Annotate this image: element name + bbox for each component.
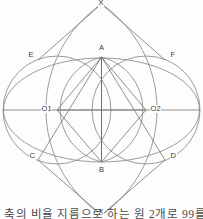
geometric-figure: X A E F O1 O2 C D B X 축의 비율 지름으로 하는 원 2개… xyxy=(0,0,203,219)
point-label-b: B xyxy=(99,166,105,174)
geometry-canvas xyxy=(0,0,203,219)
arc-lens-right xyxy=(102,4,158,215)
line-o2-a xyxy=(102,57,147,110)
line-o1-a xyxy=(57,57,102,110)
arc-lens-left xyxy=(46,4,102,215)
point-label-d: D xyxy=(170,152,177,160)
point-label-f: F xyxy=(170,51,176,59)
caption-strip: 축의 비율 지름으로 하는 원 2개로 99를 그 xyxy=(0,207,203,219)
point-label-e: E xyxy=(28,51,34,59)
ray-top-x-left xyxy=(38,4,102,60)
point-label-c: C xyxy=(29,152,36,160)
arc-vesica-left xyxy=(60,57,101,162)
point-label-o2: O2 xyxy=(150,105,161,113)
ray-top-x-right xyxy=(102,4,166,60)
arc-vesica-right xyxy=(102,57,143,162)
point-label-x-top: X xyxy=(98,0,104,7)
point-label-o1: O1 xyxy=(41,105,52,113)
point-label-a: A xyxy=(99,44,105,52)
caption-text: 축의 비율 지름으로 하는 원 2개로 99를 그 xyxy=(4,207,203,219)
